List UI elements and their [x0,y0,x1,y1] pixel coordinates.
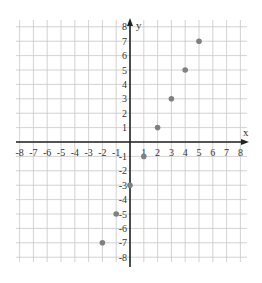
svg-text:-3: -3 [119,180,127,191]
svg-text:-7: -7 [29,147,37,158]
svg-text:8: 8 [122,21,127,32]
svg-text:1: 1 [122,122,127,133]
svg-text:-5: -5 [119,209,127,220]
svg-text:7: 7 [224,147,229,158]
data-point [155,125,161,131]
data-point [127,182,133,188]
data-point [196,38,202,44]
svg-text:-2: -2 [98,147,106,158]
data-point [100,240,106,246]
svg-text:-1: -1 [119,151,127,162]
x-axis-label: x [243,126,249,138]
grid-lines [16,20,247,262]
data-point [113,211,119,217]
svg-text:-7: -7 [119,237,127,248]
svg-text:3: 3 [169,147,174,158]
svg-text:4: 4 [183,147,188,158]
y-axis-label: y [136,19,142,31]
coordinate-plane: -8-7-6-5-4-3-2-11234567887654321-1-2-3-4… [0,0,262,283]
svg-text:8: 8 [238,147,243,158]
svg-text:-5: -5 [57,147,65,158]
svg-text:-6: -6 [43,147,51,158]
svg-text:3: 3 [122,93,127,104]
svg-text:-4: -4 [71,147,79,158]
data-point [141,154,147,160]
svg-text:5: 5 [122,65,127,76]
svg-text:-8: -8 [119,252,127,263]
svg-text:4: 4 [122,79,127,90]
svg-text:2: 2 [155,147,160,158]
svg-text:-2: -2 [119,165,127,176]
svg-text:2: 2 [122,108,127,119]
svg-text:5: 5 [197,147,202,158]
data-point [182,67,188,73]
data-point [169,96,175,102]
svg-text:6: 6 [122,50,127,61]
svg-text:-8: -8 [15,147,23,158]
svg-text:-6: -6 [119,223,127,234]
svg-text:6: 6 [210,147,215,158]
svg-text:7: 7 [122,36,127,47]
svg-text:-4: -4 [119,194,127,205]
svg-text:-3: -3 [84,147,92,158]
